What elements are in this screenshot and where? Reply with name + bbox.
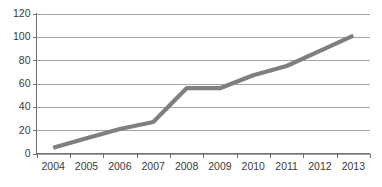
x-tick-label: 2010 (242, 160, 266, 172)
x-tick-labels: 2004200520062007200820092010201120122013 (41, 160, 365, 172)
line-chart: 020406080100120 200420052006200720082009… (0, 0, 382, 187)
x-tick-label: 2009 (208, 160, 232, 172)
x-tick-label: 2007 (142, 160, 166, 172)
x-tick-label: 2006 (108, 160, 132, 172)
x-tick-label: 2008 (175, 160, 199, 172)
y-tick-label: 40 (19, 100, 31, 112)
y-tick-labels: 020406080100120 (13, 7, 37, 159)
y-tick-label: 80 (19, 54, 31, 66)
x-tick-label: 2004 (41, 160, 65, 172)
y-tick-label: 20 (19, 124, 31, 136)
gridlines (37, 15, 371, 155)
y-tick-label: 60 (19, 77, 31, 89)
x-tick-label: 2013 (342, 160, 366, 172)
x-tick-label: 2005 (75, 160, 99, 172)
chart-canvas: 020406080100120 200420052006200720082009… (0, 0, 382, 187)
x-tick-label: 2012 (308, 160, 332, 172)
x-tick-label: 2011 (275, 160, 298, 172)
y-tick-label: 100 (13, 30, 31, 42)
y-tick-label: 0 (25, 147, 31, 159)
y-tick-label: 120 (13, 7, 31, 19)
